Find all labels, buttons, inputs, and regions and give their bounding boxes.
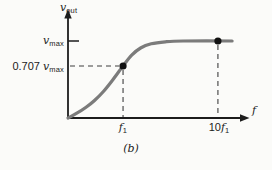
y-axis-label-sub: out [66, 6, 77, 15]
y-tick-label-vmax: vmax [4, 34, 64, 50]
x-axis-arrowhead [240, 114, 250, 121]
frequency-response-figure: vout vmax 0.707 vmax f1 10f1 f (b) [0, 0, 272, 170]
data-point-f1 [119, 62, 126, 69]
x-tick-label-10f1: 10f1 [198, 121, 240, 137]
figure-caption: (b) [111, 143, 151, 155]
x-axis-label: f [252, 104, 256, 117]
y-tick-label-0707-vmax: 0.707 vmax [4, 60, 64, 76]
data-point-10f1 [214, 37, 221, 44]
y-axis-label: vout [60, 1, 77, 17]
x-tick-label-f1: f1 [103, 121, 143, 137]
response-curve [68, 41, 232, 118]
